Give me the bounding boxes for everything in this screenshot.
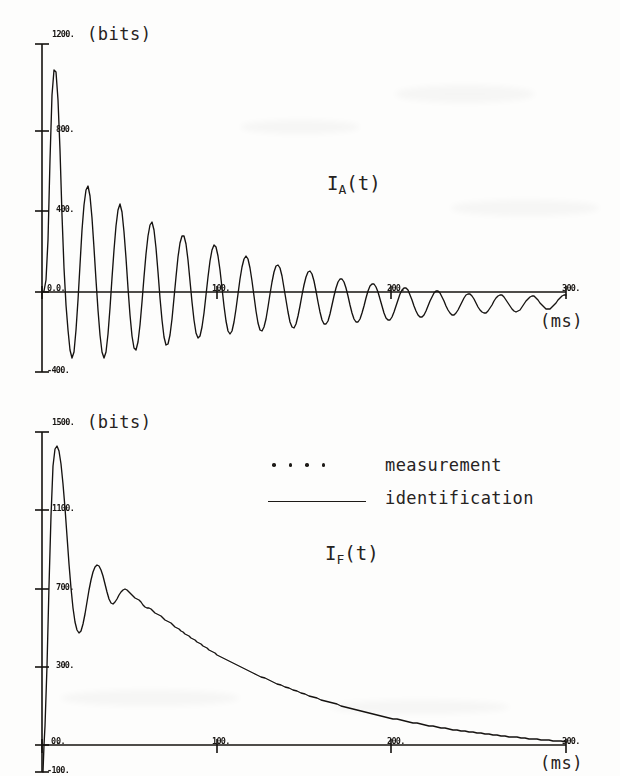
- top-x-ticklabel-100: 100.: [212, 284, 230, 293]
- legend-identification-marker: [268, 501, 366, 502]
- top-signal-curve: [42, 70, 566, 358]
- bottom-signal-symbol: I: [325, 542, 336, 564]
- top-x-ticklabel-300: 300.: [562, 284, 580, 293]
- legend-measurement-label: measurement: [385, 455, 502, 475]
- top-signal-symbol: I: [327, 172, 338, 194]
- top-x-unit-label: (ms): [540, 313, 583, 330]
- top-x-ticklabel-0: 0.: [47, 284, 56, 293]
- top-y-ticklabel-400: 400.: [56, 205, 74, 214]
- top-x-ticklabel-200: 200.: [387, 284, 405, 293]
- bottom-x-ticklabel-200: 200.: [387, 737, 405, 746]
- top-chart-panel: 1200. 800. 400. 0. -400. 0. 100. 200. 30…: [0, 0, 620, 396]
- bottom-y-unit-label: (bits): [87, 414, 151, 431]
- legend-dot: [305, 463, 309, 467]
- bottom-y-ticklabel-1500: 1500.: [52, 418, 74, 427]
- top-y-unit-label: (bits): [87, 26, 151, 43]
- top-chart-svg: [0, 0, 620, 396]
- top-signal-arg: (t): [346, 172, 380, 194]
- bottom-x-ticklabel-100: 100.: [212, 737, 230, 746]
- top-y-ticklabel-800: 800.: [56, 125, 74, 134]
- top-y-ticklabel-0: 0.: [56, 284, 65, 293]
- bottom-chart-panel: 1500. 1100. 700. 300. 0. -100. 0. 100. 2…: [0, 396, 620, 776]
- legend-dot: [322, 463, 326, 467]
- top-y-ticklabel-m400: -400.: [47, 366, 69, 375]
- figure-page: 1200. 800. 400. 0. -400. 0. 100. 200. 30…: [0, 0, 620, 776]
- legend-identification-label: identification: [385, 488, 534, 508]
- bottom-y-ticklabel-m100: -100.: [47, 766, 69, 775]
- bottom-y-ticklabel-300: 300.: [56, 661, 74, 670]
- legend-dot: [289, 463, 293, 467]
- top-y-ticklabel-1200: 1200.: [52, 30, 74, 39]
- legend-dot: [272, 463, 276, 467]
- bottom-signal-label: IF(t): [325, 544, 379, 566]
- bottom-x-ticklabel-0: 0.: [51, 737, 60, 746]
- bottom-x-ticklabel-300: 300.: [562, 737, 580, 746]
- bottom-x-unit-label: (ms): [540, 755, 583, 772]
- bottom-signal-arg: (t): [344, 542, 378, 564]
- top-signal-label: IA(t): [327, 174, 381, 196]
- bottom-chart-svg: [0, 396, 620, 776]
- legend-measurement-marker: [272, 463, 325, 467]
- bottom-y-ticklabel-1100: 1100.: [52, 504, 74, 513]
- bottom-y-ticklabel-700: 700.: [56, 583, 74, 592]
